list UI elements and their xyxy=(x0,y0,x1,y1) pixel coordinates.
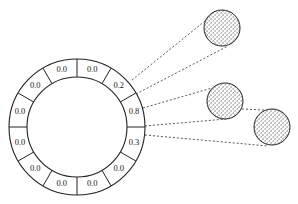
node-circles xyxy=(204,10,290,145)
ring-segment-value: 0.0 xyxy=(30,163,41,173)
dashed-connection-line xyxy=(132,21,205,80)
ring-segment-value: 0.0 xyxy=(30,80,41,90)
ring-segment-value: 0.0 xyxy=(15,137,26,147)
ring-divider xyxy=(120,152,136,161)
ring-divider xyxy=(120,93,136,102)
ring-segment-value: 0.0 xyxy=(113,163,124,173)
ring-segment-value: 0.0 xyxy=(56,178,67,188)
dashed-connection-line xyxy=(143,88,212,108)
dashed-connections xyxy=(132,21,268,146)
ring-divider xyxy=(43,68,52,84)
ring-segment-value: 0.8 xyxy=(129,106,140,116)
ring-segment-value: 0.0 xyxy=(56,64,67,74)
ring-diagram: 0.00.20.80.30.00.00.00.00.00.00.00.0 xyxy=(0,0,298,204)
ring-segment-value: 0.0 xyxy=(87,64,98,74)
node-3-circle xyxy=(254,109,290,145)
ring-divider xyxy=(18,152,34,161)
node-2-circle xyxy=(207,83,243,119)
dashed-connection-line xyxy=(145,119,226,126)
ring-divider xyxy=(43,170,52,186)
node-1-circle xyxy=(204,10,240,46)
hash-ring: 0.00.20.80.30.00.00.00.00.00.00.00.0 xyxy=(9,59,145,195)
ring-divider xyxy=(102,68,111,84)
ring-inner-edge xyxy=(27,77,127,177)
dashed-connection-line xyxy=(242,109,264,110)
ring-divider xyxy=(102,170,111,186)
ring-segment-value: 0.0 xyxy=(15,106,26,116)
ring-segment-value: 0.2 xyxy=(113,80,124,90)
dashed-connection-line xyxy=(145,135,268,146)
ring-divider xyxy=(18,93,34,102)
ring-segment-value: 0.3 xyxy=(129,137,140,147)
ring-segment-value: 0.0 xyxy=(87,178,98,188)
